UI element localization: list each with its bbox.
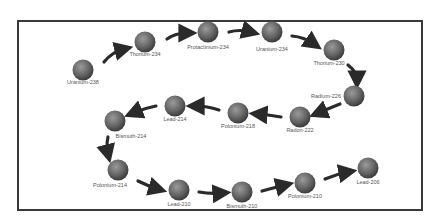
node-pb206: Lead-206 (356, 158, 379, 186)
decay-arrow-ra226-to-rn222 (318, 104, 340, 113)
node-label: Lead-206 (356, 179, 379, 185)
decay-arrow-rn222-to-po218 (258, 114, 281, 117)
nucleus-ball-icon (105, 111, 126, 132)
node-po218: Polonium-218 (221, 103, 255, 130)
node-label: Thorium-234 (129, 51, 160, 57)
node-label: Radon-222 (286, 127, 313, 133)
decay-arrow-pb214-to-bi214 (133, 106, 156, 113)
nucleus-ball-icon (232, 182, 253, 203)
decay-arrow-pa234-to-u234 (229, 31, 251, 33)
decay-arrow-th234-to-pa234 (167, 33, 188, 39)
node-bi214: Bismuth-214 (105, 111, 147, 140)
node-label: Protactinium-234 (187, 44, 229, 50)
node-label: Uranium-234 (256, 46, 288, 52)
node-u238: Uranium-238 (67, 60, 99, 86)
nucleus-ball-icon (198, 22, 219, 43)
decay-arrow-po218-to-pb214 (195, 106, 219, 110)
node-label: Lead-214 (163, 116, 186, 122)
node-th230: Thorium-230 (313, 40, 344, 67)
node-bi210: Bismuth-210 (227, 182, 258, 210)
nucleus-ball-icon (290, 107, 311, 128)
node-label: Radium-226 (311, 93, 341, 99)
nucleus-ball-icon (73, 60, 94, 81)
node-rn222: Radon-222 (286, 107, 313, 134)
nucleus-ball-icon (165, 96, 186, 117)
node-u234: Uranium-234 (256, 22, 288, 53)
nucleus-ball-icon (324, 40, 345, 61)
node-label: Polonium-218 (221, 123, 255, 129)
nucleus-ball-icon (262, 22, 283, 43)
node-label: Bismuth-210 (227, 203, 258, 209)
node-th234: Thorium-234 (129, 32, 160, 58)
node-pa234: Protactinium-234 (187, 22, 229, 51)
decay-arrow-bi214-to-po214 (107, 137, 108, 154)
node-label: Thorium-230 (313, 60, 344, 66)
nucleus-ball-icon (344, 86, 365, 107)
decay-arrow-po214-to-pb210 (138, 181, 158, 189)
decay-arrow-pb210-to-bi210 (199, 192, 222, 193)
node-po214: Polonium-214 (93, 160, 128, 189)
nucleus-ball-icon (135, 32, 156, 53)
nucleus-ball-icon (358, 158, 379, 179)
decay-arrow-bi210-to-po210 (262, 185, 285, 191)
decay-chain-diagram: Uranium-238Thorium-234Protactinium-234Ur… (0, 0, 432, 223)
nucleus-ball-icon (228, 103, 249, 124)
node-pb214: Lead-214 (163, 96, 186, 123)
decay-arrow-po210-to-pb206 (325, 172, 348, 179)
node-po210: Polonium-210 (288, 173, 322, 200)
node-label: Polonium-214 (93, 182, 127, 188)
nodes-layer: Uranium-238Thorium-234Protactinium-234Ur… (67, 22, 380, 210)
node-label: Lead-210 (167, 201, 190, 207)
decay-arrow-u234-to-th230 (292, 36, 314, 44)
node-label: Bismuth-214 (116, 133, 147, 139)
node-label: Uranium-238 (67, 79, 99, 85)
nucleus-ball-icon (108, 160, 129, 181)
node-pb210: Lead-210 (167, 180, 190, 208)
nucleus-ball-icon (169, 180, 190, 201)
decay-arrow-th230-to-ra226 (348, 65, 357, 80)
decay-arrow-u238-to-th234 (104, 49, 124, 62)
nucleus-ball-icon (295, 173, 316, 194)
node-label: Polonium-210 (288, 193, 322, 199)
